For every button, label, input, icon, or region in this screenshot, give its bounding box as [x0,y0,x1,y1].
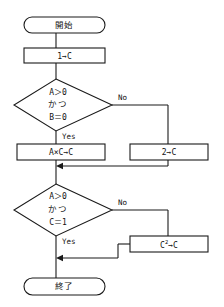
decision-1-yes-label: Yes [62,132,76,141]
decision-1-line2: かつ [48,99,67,109]
square-c-tail: →C [168,240,178,249]
set-two-label: 2→C [162,148,177,157]
node-start[interactable]: 開始 [24,17,105,33]
decision-1-line3: B＝0 [49,113,67,122]
flowchart-svg: 開始 1→C A＞0 かつ B＝0 No Yes A×C→C 2→C [0,0,224,307]
node-decision-1[interactable]: A＞0 かつ B＝0 [14,79,112,131]
decision-2-line1: A＞0 [49,192,67,201]
node-square-c[interactable]: C2→C [130,236,208,252]
decision-2-line3: C＝1 [49,218,67,227]
node-end[interactable]: 終了 [24,278,105,295]
mul-ac-label: A×C→C [49,148,73,157]
decision-1-no-label: No [118,93,128,102]
node-init-c[interactable]: 1→C [24,48,105,63]
merge-arrow-upper [56,163,63,169]
end-label: 終了 [55,281,74,291]
decision-2-yes-label: Yes [62,237,76,246]
start-label: 開始 [55,20,74,30]
init-c-label: 1→C [57,52,72,61]
decision-2-line2: かつ [48,204,67,214]
node-decision-2[interactable]: A＞0 かつ C＝1 [14,184,112,236]
decision-2-no-label: No [118,198,128,207]
decision-1-line1: A＞0 [49,88,67,97]
square-c-label: C2→C [160,238,178,249]
node-mul-ac[interactable]: A×C→C [17,144,105,160]
merge-arrow-lower [56,255,63,261]
node-set-two[interactable]: 2→C [130,144,208,160]
flowchart-canvas: 開始 1→C A＞0 かつ B＝0 No Yes A×C→C 2→C [0,0,224,307]
